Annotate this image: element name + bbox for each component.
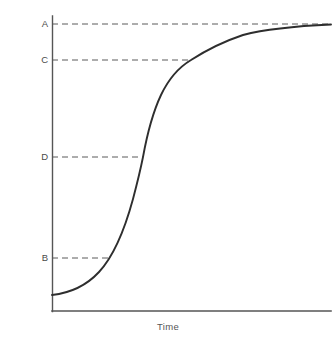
level-label-c: C	[34, 55, 48, 65]
x-axis-title: Time	[0, 321, 336, 332]
population-growth-figure: A C D B Population Time	[0, 0, 336, 352]
y-axis-title: Population	[0, 150, 59, 162]
population-curve	[52, 25, 331, 296]
level-label-b: B	[34, 253, 48, 263]
level-label-a: A	[34, 19, 48, 29]
logistic-curve-plot	[0, 0, 336, 352]
